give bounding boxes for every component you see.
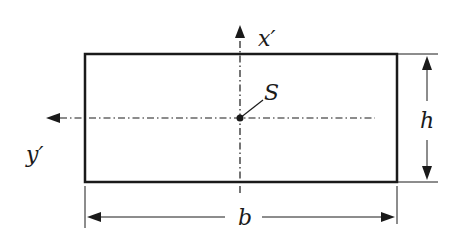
arrow-left-icon [87,212,101,222]
axis-label-y-prime: y′ [25,142,43,167]
centroid-label: S [264,80,279,105]
arrow-left-icon [46,113,60,123]
axis-label-x-prime: x′ [258,26,275,51]
height-label: h [420,108,434,133]
centroid-leader [240,100,263,118]
cross-section-diagram: x′ y′ S h b [0,0,463,241]
vertical-axis [235,25,245,193]
width-label: b [238,205,252,230]
arrow-right-icon [381,212,395,222]
horizontal-axis [46,113,375,123]
arrow-down-icon [422,166,432,180]
arrow-up-icon [235,25,245,38]
arrow-up-icon [422,56,432,70]
